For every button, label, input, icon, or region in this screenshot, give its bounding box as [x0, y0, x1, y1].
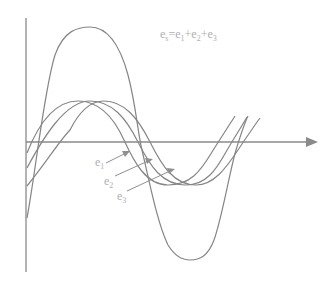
label-e2: e2	[104, 175, 113, 190]
label-e1-sub: 1	[100, 162, 104, 171]
pointer-arrow-e1	[106, 151, 130, 163]
resultant-formula-label: es=e1+e2+e3	[160, 28, 217, 43]
curve-es	[27, 27, 248, 260]
label-e1: e1	[95, 156, 104, 171]
axis-arrowhead-icon	[306, 137, 318, 147]
label-e3-sub: 3	[122, 196, 126, 205]
label-e3: e3	[117, 190, 126, 205]
formula-term-3-sub: 3	[213, 34, 217, 43]
label-e2-sub: 2	[109, 181, 113, 190]
